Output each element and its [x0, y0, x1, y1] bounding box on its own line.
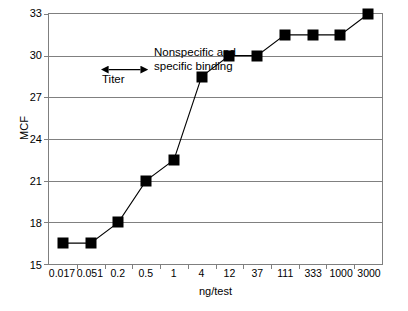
binding-annotation-line1: Nonspecific and: [154, 46, 236, 59]
x-tick-label: 1000: [329, 267, 352, 279]
binding-annotation-line2: specific binding: [154, 60, 233, 73]
x-tick-label: 333: [304, 267, 322, 279]
titer-label: Titer: [102, 73, 125, 85]
x-tick-label: 12: [224, 267, 236, 279]
y-tick-label: 15: [30, 259, 42, 271]
y-tick-label: 21: [30, 175, 42, 187]
y-tick-mark: [44, 264, 49, 265]
x-tick-label: 0.5: [138, 267, 153, 279]
x-tick-label: 1: [171, 267, 177, 279]
x-tick-label: 3000: [357, 267, 380, 279]
y-tick-label: 24: [30, 133, 42, 145]
x-tick-label: 4: [199, 267, 205, 279]
x-tick-label: 0.017: [49, 267, 75, 279]
x-tick-label: 37: [252, 267, 264, 279]
y-tick-label: 33: [30, 7, 42, 19]
plot-area: Titer Nonspecific and specific binding: [48, 13, 383, 265]
y-tick-label: 18: [30, 217, 42, 229]
x-axis-tick-labels: 0.0170.0510.20.514123711133310003000: [48, 267, 383, 285]
x-axis-title: ng/test: [48, 285, 383, 297]
x-tick-label: 0.2: [110, 267, 125, 279]
x-tick-label: 0.051: [77, 267, 103, 279]
chart-container: MCF 33 30 27 24 21 18 15: [0, 0, 408, 311]
y-tick-label: 30: [30, 49, 42, 61]
y-axis-tick-labels: 33 30 27 24 21 18 15: [0, 13, 42, 265]
x-tick-label: 111: [277, 267, 293, 279]
y-tick-label: 27: [30, 91, 42, 103]
